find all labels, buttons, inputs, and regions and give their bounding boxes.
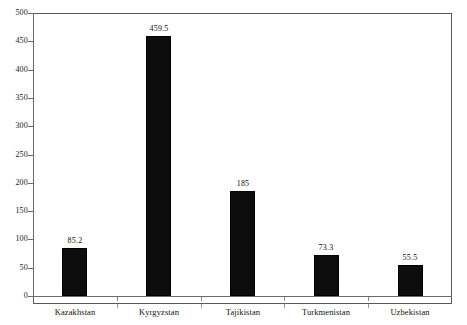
y-axis-tick: [28, 41, 33, 42]
x-axis-separator-tick: [284, 297, 285, 301]
bar-value-label: 85.2: [45, 236, 105, 245]
x-axis-separator-tick: [368, 297, 369, 301]
y-axis-tick-label-wrap: 400: [0, 66, 28, 74]
y-axis-tick-label-wrap: 150: [0, 207, 28, 215]
y-axis-tick-label-wrap: 50: [0, 264, 28, 272]
y-axis-tick-label: 50: [2, 264, 28, 272]
bar: [146, 36, 171, 296]
y-axis-line: [33, 13, 34, 297]
bar-chart: 050100150200250300350400450500 85.2459.5…: [0, 0, 467, 325]
y-axis-tick: [28, 211, 33, 212]
bar: [230, 191, 255, 296]
y-axis-tick-label-wrap: 500: [0, 9, 28, 17]
bar-value-label: 459.5: [129, 24, 189, 33]
bar: [62, 248, 87, 296]
bar-value-label: 185: [213, 179, 273, 188]
bar: [314, 255, 339, 296]
y-axis-tick-label-wrap: 300: [0, 122, 28, 130]
y-axis-tick-label-wrap: 250: [0, 151, 28, 159]
y-axis-tick: [28, 239, 33, 240]
y-axis-tick-label-wrap: 450: [0, 37, 28, 45]
y-axis-tick-label-wrap: 350: [0, 94, 28, 102]
y-axis-tick: [28, 268, 33, 269]
y-axis-tick: [28, 98, 33, 99]
x-axis-line: [33, 296, 452, 297]
y-axis-tick: [28, 155, 33, 156]
x-axis-category-label: Kazakhstan: [33, 307, 117, 318]
y-axis-tick-label: 100: [2, 235, 28, 243]
y-axis-tick-label: 450: [2, 37, 28, 45]
y-axis-tick-label: 300: [2, 122, 28, 130]
y-axis-tick-label: 400: [2, 66, 28, 74]
y-axis-tick: [28, 183, 33, 184]
x-axis-separator-tick: [117, 297, 118, 301]
y-axis-tick-label: 350: [2, 94, 28, 102]
x-axis-category-label: Kyrgyzstan: [117, 307, 201, 318]
x-axis-category-label: Uzbekistan: [368, 307, 452, 318]
y-axis-tick-label: 0: [2, 292, 28, 300]
y-axis-tick-label: 250: [2, 151, 28, 159]
y-axis-tick-label-wrap: 200: [0, 179, 28, 187]
y-axis-tick-label: 500: [2, 9, 28, 17]
x-axis-category-label: Turkmenistan: [284, 307, 368, 318]
y-axis-tick-label: 150: [2, 207, 28, 215]
x-axis-separator-tick: [201, 297, 202, 301]
y-axis-tick-label: 200: [2, 179, 28, 187]
y-axis-tick: [28, 13, 33, 14]
y-axis-tick-label-wrap: 100: [0, 235, 28, 243]
y-axis-tick: [28, 70, 33, 71]
y-axis-tick: [28, 126, 33, 127]
bar-value-label: 73.3: [296, 243, 356, 252]
x-axis-category-label: Tajikistan: [201, 307, 285, 318]
bar-value-label: 55.5: [380, 253, 440, 262]
bar: [398, 265, 423, 296]
y-axis-tick-label-wrap: 0: [0, 292, 28, 300]
